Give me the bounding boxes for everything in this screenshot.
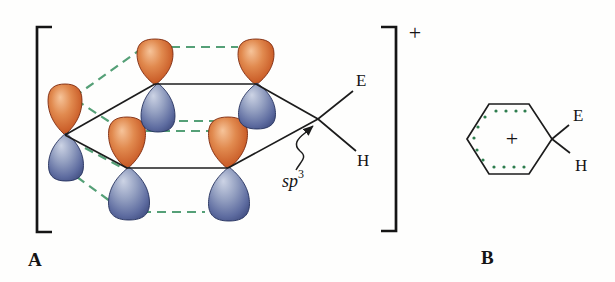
- aromatic-dot: [492, 165, 495, 168]
- p-orbital-lobe-blue: [109, 167, 150, 220]
- substituent-H-label-b: H: [575, 156, 587, 175]
- aromatic-dot: [475, 148, 478, 151]
- aromatic-dot: [512, 165, 515, 168]
- ring-charge-label-b: +: [506, 126, 518, 151]
- p-orbital-lobes: [48, 39, 276, 221]
- aromatic-dot: [504, 109, 507, 112]
- aromatic-dot: [523, 109, 526, 112]
- sp3-pointer-arrow: [296, 126, 313, 170]
- aromatic-dot: [483, 115, 486, 118]
- aromatic-dot: [494, 109, 497, 112]
- substituent-E-label-a: E: [356, 71, 366, 90]
- sp3-label: sp3: [282, 167, 304, 191]
- aromatic-dot: [481, 158, 484, 161]
- structure-a-label: A: [28, 249, 42, 270]
- cation-charge-label: +: [409, 20, 421, 45]
- structure-b-label: B: [481, 247, 494, 268]
- bond-H-b: [552, 139, 570, 153]
- aromatic-dot: [476, 125, 479, 128]
- p-orbital-lobe-orange: [137, 39, 173, 85]
- bracket-left: [37, 27, 52, 232]
- bond-E-b: [552, 125, 569, 139]
- aromatic-dot: [522, 165, 525, 168]
- p-orbital-lobe-blue: [49, 133, 84, 181]
- substituent-H-label-a: H: [357, 151, 369, 170]
- p-orbital-lobe-blue: [209, 167, 250, 221]
- bracket-right: [381, 27, 396, 231]
- overlap-dash-topleft: [74, 49, 141, 97]
- aromatic-dot: [514, 109, 517, 112]
- p-orbital-lobe-blue: [239, 83, 276, 129]
- substituent-bonds-b: [552, 125, 570, 153]
- aromatic-dot: [502, 165, 505, 168]
- p-orbital-lobe-blue: [141, 83, 175, 132]
- figure-canvas: + E H sp3 A + E H B: [0, 0, 615, 282]
- p-orbital-lobe-orange: [238, 39, 274, 85]
- substituent-E-label-b: E: [573, 106, 583, 125]
- orbital-figure-svg: + E H sp3 A + E H B: [0, 0, 615, 282]
- aromatic-dot: [472, 136, 475, 139]
